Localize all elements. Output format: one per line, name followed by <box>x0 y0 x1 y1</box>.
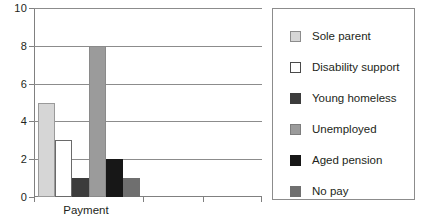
legend-item-no-pay: No pay <box>290 176 410 207</box>
y-axis-label-10: 10 <box>14 3 27 14</box>
legend-swatch-icon <box>290 93 301 104</box>
legend-label: Aged pension <box>312 155 382 167</box>
legend-swatch-icon <box>290 186 301 197</box>
x-tick-2 <box>203 197 204 202</box>
bar-disability-support <box>55 140 72 197</box>
bar-sole-parent <box>38 103 55 198</box>
legend-item-unemployed: Unemployed <box>290 114 410 145</box>
legend-swatch-icon <box>290 31 301 42</box>
legend: Sole parent Disability support Young hom… <box>272 8 415 200</box>
bar-no-pay <box>123 178 140 197</box>
x-tick-3 <box>261 197 262 202</box>
legend-swatch-icon <box>290 62 301 73</box>
bar-aged-pension <box>106 159 123 197</box>
x-axis-category-label: Payment <box>63 205 108 217</box>
x-tick-1 <box>143 197 144 202</box>
y-axis-label-0: 0 <box>21 192 27 203</box>
x-tick-0 <box>34 197 35 202</box>
y-axis-label-2: 2 <box>21 154 27 165</box>
y-axis-label-4: 4 <box>21 116 27 127</box>
bar-group-payment <box>34 8 262 197</box>
legend-swatch-icon <box>290 124 301 135</box>
legend-item-young-homeless: Young homeless <box>290 83 410 114</box>
bar-unemployed <box>89 46 106 197</box>
legend-item-disability-support: Disability support <box>290 52 410 83</box>
legend-item-aged-pension: Aged pension <box>290 145 410 176</box>
legend-list: Sole parent Disability support Young hom… <box>290 21 410 207</box>
bar-chart: 10 8 6 4 2 0 Payment Sole parent <box>0 0 422 220</box>
legend-label: No pay <box>312 186 348 198</box>
legend-swatch-icon <box>290 155 301 166</box>
legend-label: Disability support <box>312 62 400 74</box>
y-axis-label-6: 6 <box>21 78 27 89</box>
legend-label: Young homeless <box>312 93 397 105</box>
y-axis-label-8: 8 <box>21 40 27 51</box>
plot-area: 10 8 6 4 2 0 Payment <box>34 8 262 197</box>
legend-item-sole-parent: Sole parent <box>290 21 410 52</box>
bar-young-homeless <box>72 178 89 197</box>
legend-label: Sole parent <box>312 31 371 43</box>
legend-label: Unemployed <box>312 124 377 136</box>
